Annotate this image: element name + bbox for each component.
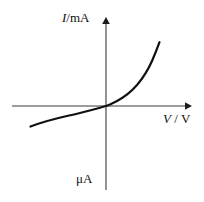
diode-curve [31, 42, 160, 126]
y-axis-label-microamp: μA [76, 172, 92, 185]
current-unit: mA [70, 10, 90, 25]
x-axis-arrowhead [185, 102, 192, 110]
voltage-symbol: V [163, 111, 171, 126]
diode-iv-figure: I/mA μA V / V [0, 0, 204, 202]
y-axis-arrowhead [102, 17, 110, 24]
voltage-unit: V [181, 111, 190, 126]
voltage-separator: / [171, 111, 181, 126]
x-axis-label-voltage: V / V [163, 112, 190, 125]
iv-characteristic-plot [0, 0, 204, 202]
y-axis-label-current: I/mA [62, 11, 89, 24]
